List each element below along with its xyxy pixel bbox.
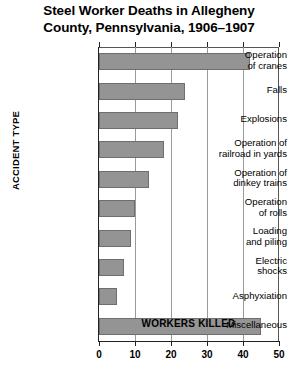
x-axis-tick-top [207, 42, 208, 47]
x-axis-tick [99, 341, 100, 346]
x-axis-tick [279, 341, 280, 346]
x-axis-tick-label: 50 [264, 349, 291, 360]
category-label-line: Falls [199, 85, 287, 96]
chart-title-line-2: County, Pennsylvania, 1906–1907 [16, 20, 282, 37]
bar [99, 171, 149, 188]
category-label-line: of rolls [199, 208, 287, 219]
bar [99, 141, 164, 158]
bar [99, 83, 185, 100]
bar [99, 288, 117, 305]
chart-title: Steel Worker Deaths in Allegheny County,… [16, 3, 282, 36]
category-label-line: and piling [199, 237, 287, 248]
x-axis-tick-top [279, 42, 280, 47]
x-axis-tick-label: 40 [228, 349, 258, 360]
x-axis-tick-label: 10 [120, 349, 150, 360]
category-label-line: dinkey trains [199, 178, 287, 189]
category-label-line: of cranes [199, 61, 287, 72]
x-axis-tick [171, 341, 172, 346]
x-axis-tick [243, 341, 244, 346]
chart-title-line-1: Steel Worker Deaths in Allegheny [16, 3, 282, 20]
category-label: Asphyxiation [199, 291, 291, 302]
category-label: Explosions [199, 114, 291, 125]
x-axis-tick-label: 20 [156, 349, 186, 360]
category-label-line: Asphyxiation [199, 291, 287, 302]
x-axis-tick-label: 30 [192, 349, 222, 360]
bar [99, 259, 124, 276]
category-label: Operation ofdinkey trains [199, 168, 291, 190]
category-label: Operationof rolls [199, 197, 291, 219]
category-label-line: Explosions [199, 114, 287, 125]
category-label: Loadingand piling [199, 226, 291, 248]
x-axis-tick-label: 0 [84, 349, 114, 360]
category-label: Operation ofrailroad in yards [199, 138, 291, 160]
category-label: Electricshocks [199, 256, 291, 278]
x-axis-tick-top [243, 42, 244, 47]
x-axis-tick-top [135, 42, 136, 47]
bar [99, 230, 131, 247]
x-axis-tick-top [171, 42, 172, 47]
category-label: Falls [199, 85, 291, 96]
y-axis-title: ACCIDENT TYPE [10, 91, 21, 211]
bar [99, 112, 178, 129]
bar [99, 200, 135, 217]
bar-chart: Steel Worker Deaths in Allegheny County,… [0, 0, 291, 384]
x-axis-tick-top [99, 42, 100, 47]
x-axis-tick [135, 341, 136, 346]
x-axis-tick [207, 341, 208, 346]
category-label: Operationof cranes [199, 50, 291, 72]
category-label-line: shocks [199, 266, 287, 277]
x-axis-title: WORKERS KILLED [98, 318, 279, 329]
category-label-line: railroad in yards [199, 149, 287, 160]
